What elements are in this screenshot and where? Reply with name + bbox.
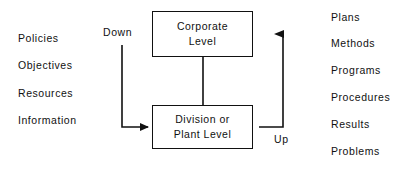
output-item-procedures: Procedures: [331, 92, 390, 103]
input-item-objectives: Objectives: [18, 60, 73, 71]
flow-label-down: Down: [103, 27, 132, 38]
output-item-results: Results: [331, 119, 370, 130]
organizational-flow-diagram: Policies Objectives Resources Informatio…: [0, 0, 402, 173]
node-corporate-level-label: Corporate Level: [177, 19, 228, 49]
output-item-programs: Programs: [331, 65, 381, 76]
input-item-information: Information: [18, 115, 77, 126]
up-connector-arrow: [259, 34, 283, 127]
output-item-problems: Problems: [331, 146, 380, 157]
node-corporate-level: Corporate Level: [152, 11, 253, 57]
down-connector-arrow: [122, 45, 148, 127]
input-item-resources: Resources: [18, 88, 73, 99]
node-division-or-plant-level: Division or Plant Level: [152, 105, 253, 149]
output-item-plans: Plans: [331, 12, 360, 23]
input-item-policies: Policies: [18, 33, 59, 44]
output-item-methods: Methods: [331, 38, 375, 49]
node-division-or-plant-level-label: Division or Plant Level: [174, 112, 231, 142]
flow-label-up: Up: [274, 134, 289, 145]
